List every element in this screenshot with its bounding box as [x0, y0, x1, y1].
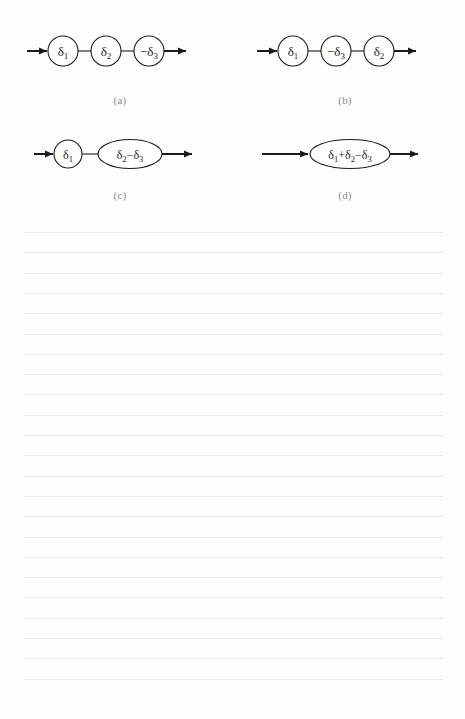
- caption-c: (c): [90, 189, 150, 201]
- diagram-b: δ1 −δ3 δ2: [250, 20, 430, 82]
- ruled-paper-area: [0, 220, 465, 719]
- rule-line: [24, 496, 443, 497]
- caption-b: (b): [315, 94, 375, 106]
- rule-line: [24, 516, 443, 517]
- rule-line: [24, 252, 443, 253]
- rule-line: [24, 334, 443, 335]
- figure-area: δ1 δ2 −δ3 (a): [0, 0, 465, 220]
- page-canvas: δ1 δ2 −δ3 (a): [0, 0, 465, 719]
- diagram-d: δ1+δ2−δ3: [252, 128, 427, 182]
- rule-line: [24, 557, 443, 558]
- caption-d: (d): [315, 189, 375, 201]
- rule-line: [24, 455, 443, 456]
- rule-line: [24, 293, 443, 294]
- rule-line: [24, 537, 443, 538]
- rule-line: [24, 273, 443, 274]
- diagram-a: δ1 δ2 −δ3: [20, 20, 200, 82]
- diagram-c: δ1 δ2−δ3: [20, 128, 210, 182]
- rule-line: [24, 394, 443, 395]
- caption-a: (a): [90, 94, 150, 106]
- rule-line: [24, 638, 443, 639]
- rule-line: [24, 435, 443, 436]
- rule-line: [24, 415, 443, 416]
- rule-line: [24, 232, 443, 233]
- rule-line: [24, 577, 443, 578]
- rule-line: [24, 618, 443, 619]
- rule-line: [24, 476, 443, 477]
- rule-line: [24, 679, 443, 680]
- rule-line: [24, 658, 443, 659]
- rule-line: [24, 374, 443, 375]
- rule-line: [24, 354, 443, 355]
- rule-line: [24, 597, 443, 598]
- rule-line: [24, 313, 443, 314]
